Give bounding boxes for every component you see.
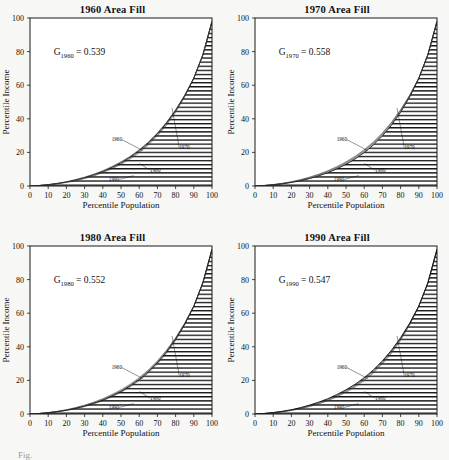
x-tick-label: 100 bbox=[431, 191, 443, 200]
x-axis-label: Percentile Population bbox=[307, 428, 385, 438]
x-tick-label: 70 bbox=[153, 419, 161, 428]
y-tick-label: 20 bbox=[241, 148, 249, 157]
curve-label-1990: 1990 bbox=[109, 176, 120, 182]
x-tick-label: 30 bbox=[306, 191, 314, 200]
curve-label-1980: 1980 bbox=[150, 395, 161, 401]
chart-panel-1990: 1990 Area Fill 1960197019801990010203040… bbox=[225, 228, 449, 457]
x-tick-label: 80 bbox=[172, 419, 180, 428]
x-tick-label: 40 bbox=[99, 191, 107, 200]
x-tick-label: 50 bbox=[342, 419, 350, 428]
x-tick-label: 80 bbox=[397, 419, 405, 428]
chart-panel-1980: 1980 Area Fill 1960197019801990010203040… bbox=[0, 228, 225, 457]
y-tick-label: 60 bbox=[16, 309, 24, 318]
x-tick-label: 50 bbox=[117, 419, 125, 428]
chart-panel-1970: 1970 Area Fill 1960197019801990010203040… bbox=[225, 0, 449, 228]
x-tick-label: 20 bbox=[62, 191, 70, 200]
curve-label-1980: 1980 bbox=[375, 167, 386, 173]
x-tick-label: 60 bbox=[360, 419, 368, 428]
lorenz-chart-1990: 1960197019801990010203040506070809010002… bbox=[225, 228, 449, 457]
x-axis-label: Percentile Population bbox=[82, 200, 160, 210]
x-tick-label: 100 bbox=[206, 191, 218, 200]
x-tick-label: 20 bbox=[287, 419, 295, 428]
x-tick-label: 60 bbox=[135, 419, 143, 428]
figure-caption: Fig. bbox=[18, 450, 32, 460]
x-tick-label: 60 bbox=[135, 191, 143, 200]
x-tick-label: 10 bbox=[269, 191, 277, 200]
y-tick-label: 20 bbox=[16, 376, 24, 385]
x-tick-label: 10 bbox=[44, 191, 52, 200]
curve-label-1980: 1980 bbox=[150, 167, 161, 173]
y-tick-label: 40 bbox=[16, 343, 24, 352]
y-tick-label: 100 bbox=[237, 242, 249, 251]
y-tick-label: 80 bbox=[16, 276, 24, 285]
y-axis-label: Percentile Income bbox=[1, 297, 11, 362]
x-tick-label: 0 bbox=[28, 191, 32, 200]
lorenz-chart-1980: 1960197019801990010203040506070809010002… bbox=[0, 228, 225, 457]
x-tick-label: 20 bbox=[62, 419, 70, 428]
x-tick-label: 70 bbox=[153, 191, 161, 200]
x-tick-label: 30 bbox=[81, 419, 89, 428]
x-tick-label: 100 bbox=[206, 419, 218, 428]
y-tick-label: 100 bbox=[237, 14, 249, 23]
x-tick-label: 40 bbox=[99, 419, 107, 428]
curve-label-1990: 1990 bbox=[334, 404, 345, 410]
x-tick-label: 80 bbox=[397, 191, 405, 200]
y-tick-label: 100 bbox=[12, 242, 24, 251]
x-tick-label: 50 bbox=[117, 191, 125, 200]
x-tick-label: 30 bbox=[306, 419, 314, 428]
y-tick-label: 20 bbox=[241, 376, 249, 385]
x-tick-label: 90 bbox=[190, 419, 198, 428]
curve-label-1970: 1970 bbox=[404, 372, 415, 378]
y-tick-label: 40 bbox=[16, 115, 24, 124]
chart-panel-1960: 1960 Area Fill 1960197019801990010203040… bbox=[0, 0, 225, 228]
x-tick-label: 70 bbox=[378, 191, 386, 200]
y-axis-label: Percentile Income bbox=[226, 69, 236, 134]
y-tick-label: 0 bbox=[20, 410, 24, 419]
y-axis-label: Percentile Income bbox=[226, 297, 236, 362]
x-axis-label: Percentile Population bbox=[307, 200, 385, 210]
y-tick-label: 80 bbox=[16, 48, 24, 57]
y-tick-label: 60 bbox=[16, 81, 24, 90]
x-tick-label: 40 bbox=[324, 419, 332, 428]
curve-label-1970: 1970 bbox=[179, 144, 190, 150]
y-axis-label: Percentile Income bbox=[1, 69, 11, 134]
x-tick-label: 20 bbox=[287, 191, 295, 200]
x-tick-label: 90 bbox=[190, 191, 198, 200]
curve-label-1980: 1980 bbox=[375, 395, 386, 401]
x-tick-label: 10 bbox=[44, 419, 52, 428]
x-tick-label: 40 bbox=[324, 191, 332, 200]
y-tick-label: 20 bbox=[16, 148, 24, 157]
x-tick-label: 90 bbox=[415, 419, 423, 428]
curve-label-1960: 1960 bbox=[337, 136, 348, 142]
x-tick-label: 50 bbox=[342, 191, 350, 200]
curve-label-1990: 1990 bbox=[109, 404, 120, 410]
x-tick-label: 80 bbox=[172, 191, 180, 200]
curve-label-1990: 1990 bbox=[334, 176, 345, 182]
curve-label-1960: 1960 bbox=[112, 136, 123, 142]
x-tick-label: 100 bbox=[431, 419, 443, 428]
y-tick-label: 60 bbox=[241, 309, 249, 318]
y-tick-label: 40 bbox=[241, 115, 249, 124]
curve-label-1960: 1960 bbox=[337, 364, 348, 370]
curve-label-1960: 1960 bbox=[112, 364, 123, 370]
y-tick-label: 80 bbox=[241, 48, 249, 57]
lorenz-chart-1970: 1960197019801990010203040506070809010002… bbox=[225, 0, 449, 228]
x-axis-label: Percentile Population bbox=[82, 428, 160, 438]
y-tick-label: 100 bbox=[12, 14, 24, 23]
x-tick-label: 0 bbox=[28, 419, 32, 428]
curve-label-1970: 1970 bbox=[179, 372, 190, 378]
curve-label-1970: 1970 bbox=[404, 144, 415, 150]
y-tick-label: 60 bbox=[241, 81, 249, 90]
x-tick-label: 60 bbox=[360, 191, 368, 200]
y-tick-label: 0 bbox=[20, 182, 24, 191]
x-tick-label: 10 bbox=[269, 419, 277, 428]
y-tick-label: 0 bbox=[245, 182, 249, 191]
lorenz-chart-1960: 1960197019801990010203040506070809010002… bbox=[0, 0, 225, 228]
x-tick-label: 0 bbox=[253, 419, 257, 428]
x-tick-label: 30 bbox=[81, 191, 89, 200]
y-tick-label: 40 bbox=[241, 343, 249, 352]
y-tick-label: 0 bbox=[245, 410, 249, 419]
x-tick-label: 0 bbox=[253, 191, 257, 200]
x-tick-label: 90 bbox=[415, 191, 423, 200]
